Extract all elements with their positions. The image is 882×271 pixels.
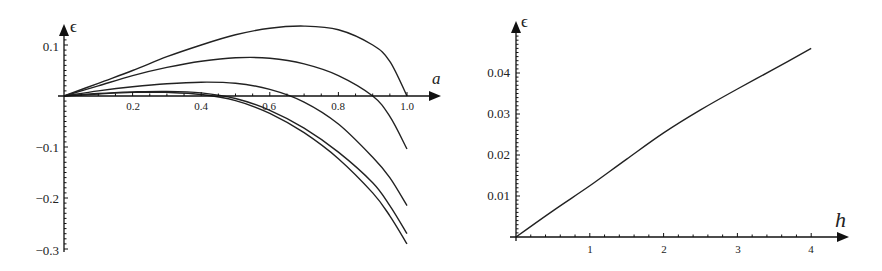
left-xtick-label: 1.0 bbox=[400, 100, 414, 112]
left-xtick-label: 0.4 bbox=[194, 100, 208, 112]
left-curve bbox=[64, 91, 407, 233]
left-ytick-label: −0.2 bbox=[35, 191, 59, 206]
right-x-arrow-icon bbox=[837, 232, 849, 242]
right-y-arrow-icon bbox=[511, 21, 521, 33]
left-curve bbox=[64, 26, 407, 96]
left-curve bbox=[64, 92, 407, 244]
right-ytick-label: 0.03 bbox=[487, 106, 510, 121]
right-xtick-label: 1 bbox=[587, 243, 593, 255]
right-chart: 1 2 3 4 0.01 0.02 0.03 0.04 h ϵ bbox=[487, 12, 849, 255]
right-xtick-label: 3 bbox=[735, 243, 741, 255]
right-xtick-label: 4 bbox=[808, 243, 814, 255]
left-x-axis-label: a bbox=[432, 69, 441, 88]
right-xtick-label: 2 bbox=[661, 243, 667, 255]
right-chart-axes bbox=[510, 21, 849, 242]
right-x-axis-label: h bbox=[835, 207, 846, 232]
right-chart-curves bbox=[516, 48, 811, 237]
left-xtick-label: 0.2 bbox=[126, 100, 140, 112]
right-ytick-label: 0.04 bbox=[487, 65, 510, 80]
left-xtick-label: 0.6 bbox=[262, 100, 276, 112]
left-chart: 0.2 0.4 0.6 0.8 1.0 0.1 −0.1 −0.2 −0.3 a… bbox=[35, 17, 441, 258]
left-x-arrow-icon bbox=[429, 91, 441, 101]
right-chart-ticks bbox=[516, 36, 811, 237]
left-y-axis-label: ϵ bbox=[70, 17, 77, 36]
right-ytick-label: 0.01 bbox=[487, 188, 510, 203]
left-ytick-label: −0.1 bbox=[35, 140, 59, 155]
right-ytick-label: 0.02 bbox=[487, 147, 510, 162]
left-ytick-label: 0.1 bbox=[43, 39, 59, 54]
right-y-axis-label: ϵ bbox=[521, 12, 528, 31]
left-ytick-label: −0.3 bbox=[35, 243, 59, 258]
left-chart-ticks bbox=[64, 35, 407, 249]
left-chart-axes bbox=[58, 24, 441, 252]
left-chart-curves bbox=[64, 26, 407, 244]
left-xtick-label: 0.8 bbox=[331, 100, 345, 112]
right-curve bbox=[516, 48, 811, 237]
left-curve bbox=[64, 57, 407, 149]
left-y-arrow-icon bbox=[59, 24, 69, 36]
figure: 0.2 0.4 0.6 0.8 1.0 0.1 −0.1 −0.2 −0.3 a… bbox=[0, 0, 882, 271]
